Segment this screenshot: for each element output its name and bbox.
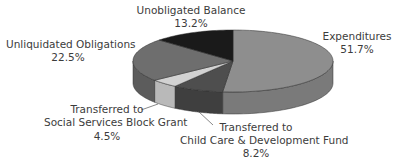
- label-name: Unobligated Balance: [128, 4, 254, 17]
- label-percent: 51.7%: [322, 43, 392, 56]
- label-percent: 22.5%: [6, 51, 130, 64]
- label-unobligated-balance: Unobligated Balance 13.2%: [128, 4, 254, 30]
- label-percent: 4.5%: [44, 130, 170, 143]
- label-line2: Child Care & Development Fund: [180, 134, 332, 147]
- label-line1: Transferred to: [44, 103, 170, 116]
- label-unliquidated-obligations: Unliquidated Obligations 22.5%: [6, 38, 130, 64]
- label-line1: Transferred to: [180, 121, 332, 134]
- pie-tops: [133, 30, 333, 92]
- label-name: Unliquidated Obligations: [6, 38, 130, 51]
- label-child-care-development-fund: Transferred to Child Care & Development …: [180, 121, 332, 160]
- label-line2: Social Services Block Grant: [44, 116, 170, 129]
- label-percent: 8.2%: [180, 147, 332, 160]
- label-name: Expenditures: [322, 30, 392, 43]
- label-social-services-block-grant: Transferred to Social Services Block Gra…: [44, 103, 170, 143]
- label-percent: 13.2%: [128, 17, 254, 30]
- label-expenditures: Expenditures 51.7%: [322, 30, 392, 56]
